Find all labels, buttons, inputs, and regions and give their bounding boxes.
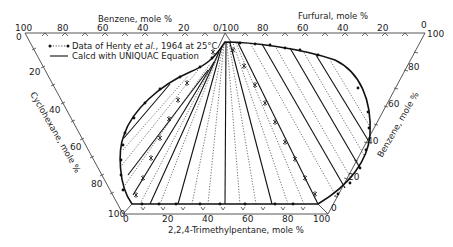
tick-top-r-40: 40 <box>337 23 349 33</box>
tick-right-80: 80 <box>408 62 420 72</box>
tick-top-r-20: 20 <box>377 23 389 33</box>
legend-calculated-label: Calcd with UNIQUAC Equation <box>72 51 199 61</box>
tick-bottom-60: 60 <box>242 214 254 224</box>
tick-bottom-100: 100 <box>313 214 330 224</box>
tick-top-80: 80 <box>57 23 69 33</box>
top-right-axis-title: Furfural, mole % <box>298 11 368 21</box>
tick-bottom-40: 40 <box>202 214 214 224</box>
tick-top-20: 20 <box>178 23 190 33</box>
legend-item-experimental: Data of Henty et al., 1964 at 25°C <box>49 41 218 51</box>
tick-top-r-80: 80 <box>257 23 269 33</box>
bottom-axis-title: 2,2,4-Trimethylpentane, mole % <box>168 225 304 235</box>
tick-left-40: 40 <box>49 105 61 115</box>
tick-right-60: 60 <box>388 99 400 109</box>
tick-left-0: 0 <box>16 32 22 42</box>
legend: Data of Henty et al., 1964 at 25°C Calcd… <box>49 41 218 61</box>
tick-top-r-60: 60 <box>297 23 309 33</box>
svg-text:Data of Henty et al., 1964 at: Data of Henty et al., 1964 at 25°C <box>72 41 218 51</box>
legend-experimental-italic: et al. <box>134 41 156 51</box>
apex-left-edge <box>218 33 225 48</box>
tick-left-20: 20 <box>29 67 41 77</box>
top-left-axis-title: Benzene, mole % <box>98 14 172 24</box>
legend-item-calculated: Calcd with UNIQUAC Equation <box>50 51 199 61</box>
inner-right-edge <box>318 204 328 214</box>
bottom-ticks <box>141 207 305 210</box>
tick-right-0: 0 <box>331 203 337 213</box>
left-axis-title: Cyclohexane, mole % <box>28 90 83 174</box>
tick-top-0-100: 0/100 <box>213 23 239 33</box>
tick-top-40: 40 <box>137 23 149 33</box>
tick-left-80: 80 <box>91 179 103 189</box>
ternary-diagram: Benzene, mole % Furfural, mole % Cyclohe… <box>0 0 453 247</box>
apex-right-edge <box>225 33 231 42</box>
tick-bottom-20: 20 <box>162 214 174 224</box>
right-ticks <box>334 52 418 197</box>
legend-experimental-suffix: , 1964 at 25°C <box>156 41 218 51</box>
tick-top-60: 60 <box>97 23 109 33</box>
binodal-curve <box>120 42 370 204</box>
tick-top-right-100: 100 <box>427 29 444 39</box>
legend-experimental-prefix: Data of Henty <box>72 41 134 51</box>
binodal-points <box>120 42 371 206</box>
tick-bottom-80: 80 <box>282 214 294 224</box>
tick-left-60: 60 <box>70 142 82 152</box>
tick-bottom-0: 0 <box>123 214 129 224</box>
